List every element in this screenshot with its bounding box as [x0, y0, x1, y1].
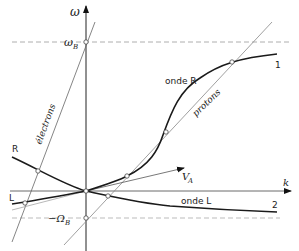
- minus-omega-b-label: −Ω: [48, 213, 65, 224]
- electrons-line: [12, 22, 95, 242]
- minus-omega-b-sub: B: [64, 219, 70, 227]
- onde-r-label: onde R: [165, 76, 197, 86]
- omega-b-label: ω: [64, 36, 73, 49]
- onde-r-curve: [12, 54, 277, 191]
- branch-2-label: 2: [272, 200, 278, 210]
- va-sub: A: [187, 177, 193, 185]
- electrons-label: électrons: [33, 102, 57, 146]
- omega-b-sub: B: [72, 43, 78, 51]
- omega-axis-label: ω: [70, 5, 80, 19]
- onde-l-curve: [12, 191, 277, 212]
- branch-1-label: 1: [275, 60, 281, 70]
- k-axis-label: k: [283, 177, 289, 188]
- r-curve-label: R: [12, 144, 18, 154]
- onde-l-label: onde L: [181, 196, 211, 206]
- protons-label: protons: [190, 87, 222, 119]
- l-curve-label: L: [9, 193, 14, 203]
- dispersion-diagram: ω k ω B −Ω B électrons protons V A onde …: [0, 0, 299, 251]
